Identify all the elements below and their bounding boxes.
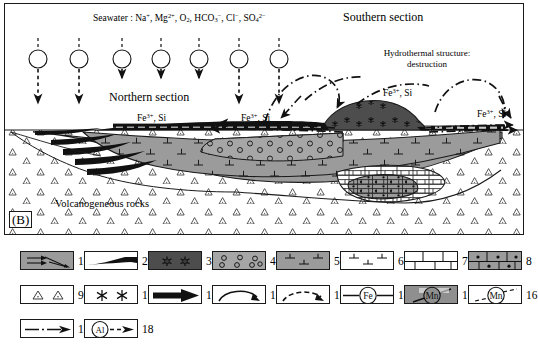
legend-swatch-4 xyxy=(212,251,266,270)
legend-swatch-10 xyxy=(84,285,138,304)
panel-label: (B) xyxy=(9,211,32,228)
volcanogeneous-rocks-label: Volcanogeneous rocks xyxy=(55,198,149,209)
hydrothermal-line-1: Hydrothermal structure: xyxy=(384,48,471,58)
legend-swatch-8 xyxy=(468,251,522,270)
legend-item-11: 11 xyxy=(148,285,217,304)
legend-swatch-2 xyxy=(84,251,138,270)
legend-swatch-15: Mn xyxy=(404,285,458,304)
legend-mn-text-white: Mn xyxy=(489,291,502,301)
legend-number-16: 16 xyxy=(526,289,538,301)
legend-item-7: 7 xyxy=(404,251,468,270)
legend-al-text: Al xyxy=(96,325,105,335)
legend-item-16: Mn 16 xyxy=(468,285,538,304)
legend-item-3: 3 xyxy=(148,251,212,270)
legend-item-5: 5 xyxy=(276,251,340,270)
southern-section-label: Southern section xyxy=(343,10,423,25)
legend-swatch-1 xyxy=(20,251,74,270)
legend-number-8: 8 xyxy=(526,255,532,267)
legend-number-6: 6 xyxy=(398,255,404,267)
legend-swatch-14: Fe xyxy=(340,285,394,304)
legend-number-5: 5 xyxy=(334,255,340,267)
legend-item-18: Al 18 xyxy=(84,319,154,338)
fesi-label-upper-right: Fe3+, Si xyxy=(383,87,412,98)
legend: 1 2 xyxy=(4,243,522,355)
legend-number-7: 7 xyxy=(462,255,468,267)
legend-item-12: 12 xyxy=(212,285,282,304)
fesi-label-center: Fe3+, Si xyxy=(241,112,270,123)
legend-swatch-5 xyxy=(276,251,330,270)
legend-item-17: 17 xyxy=(20,319,90,338)
legend-item-8: 8 xyxy=(468,251,532,270)
legend-swatch-11 xyxy=(148,285,202,304)
seawater-label: Seawater : Na+, Mg2+, O2, HCO3−, Cl−, SO… xyxy=(93,12,266,23)
legend-number-18: 18 xyxy=(142,323,154,335)
legend-item-13: 13 xyxy=(276,285,346,304)
legend-number-9: 9 xyxy=(78,289,84,301)
legend-item-6: 6 xyxy=(340,251,404,270)
northern-section-label: Northern section xyxy=(109,90,189,105)
hydrothermal-structure-label: Hydrothermal structure: destruction xyxy=(357,48,497,70)
legend-swatch-3 xyxy=(148,251,202,270)
legend-number-3: 3 xyxy=(206,255,212,267)
legend-number-1: 1 xyxy=(78,255,84,267)
legend-number-2: 2 xyxy=(142,255,148,267)
legend-fe-text: Fe xyxy=(363,291,373,301)
legend-swatch-12 xyxy=(212,285,266,304)
legend-swatch-17 xyxy=(20,319,74,338)
legend-item-9: 9 xyxy=(20,285,84,304)
legend-item-4: 4 xyxy=(212,251,276,270)
legend-swatch-9 xyxy=(20,285,74,304)
legend-mn-text-gray: Mn xyxy=(425,291,438,301)
legend-swatch-13 xyxy=(276,285,330,304)
hydrothermal-line-2: destruction xyxy=(407,59,447,69)
cross-section-diagram: Seawater : Na+, Mg2+, O2, HCO3−, Cl−, SO… xyxy=(4,3,524,235)
legend-item-15: Mn 15 xyxy=(404,285,474,304)
legend-item-10: 10 xyxy=(84,285,154,304)
legend-item-1: 1 xyxy=(20,251,84,270)
legend-swatch-7 xyxy=(404,251,458,270)
legend-item-2: 2 xyxy=(84,251,148,270)
legend-number-4: 4 xyxy=(270,255,276,267)
legend-swatch-16: Mn xyxy=(468,285,522,304)
legend-item-14: Fe 14 xyxy=(340,285,410,304)
legend-swatch-18: Al xyxy=(84,319,138,338)
fesi-label-far-right: Fe3+, Si xyxy=(477,108,506,119)
legend-swatch-6 xyxy=(340,251,394,270)
fesi-label-left: Fe3+, Si xyxy=(137,112,166,123)
